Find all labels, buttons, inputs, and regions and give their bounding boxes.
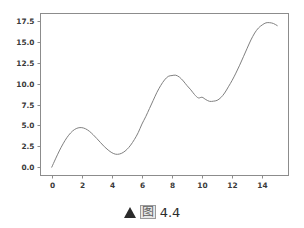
y-tick-label: 2.5 — [21, 142, 34, 151]
x-tick-label: 10 — [197, 181, 207, 190]
line-chart-svg: 0.02.55.07.510.012.515.017.5 02468101214 — [0, 0, 304, 196]
y-tick-label: 17.5 — [16, 17, 34, 26]
x-tick-label: 0 — [50, 181, 55, 190]
y-tick-label: 10.0 — [16, 80, 34, 89]
plot-background — [41, 14, 289, 176]
x-tick-label: 2 — [80, 181, 85, 190]
y-tick-label: 15.0 — [16, 38, 34, 47]
figure-root: 0.02.55.07.510.012.515.017.5 02468101214… — [0, 0, 304, 228]
y-axis-tick-labels: 0.02.55.07.510.012.515.017.5 — [16, 17, 34, 172]
chart-plot-area: 0.02.55.07.510.012.515.017.5 02468101214 — [0, 0, 304, 196]
x-tick-label: 12 — [227, 181, 237, 190]
y-tick-label: 7.5 — [21, 101, 34, 110]
x-tick-label: 8 — [170, 181, 175, 190]
y-tick-label: 12.5 — [16, 59, 34, 68]
x-tick-label: 6 — [140, 181, 145, 190]
caption-number: 4.4 — [160, 206, 181, 219]
filled-triangle-icon — [124, 207, 136, 218]
x-tick-label: 14 — [257, 181, 267, 190]
figure-caption: 图 4.4 — [0, 196, 304, 228]
x-tick-label: 4 — [110, 181, 115, 190]
y-tick-label: 0.0 — [21, 163, 34, 172]
y-tick-label: 5.0 — [21, 121, 34, 130]
x-axis-tick-labels: 02468101214 — [50, 181, 268, 190]
caption-cjk-label: 图 — [140, 205, 156, 219]
